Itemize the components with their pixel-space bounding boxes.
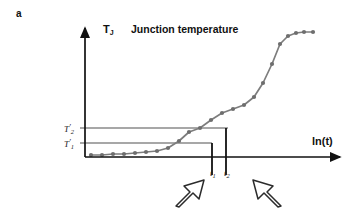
callout-arrow-left: [176, 180, 204, 207]
callout-arrow-right: [253, 180, 281, 207]
level-label-t-prime-1: T′1: [64, 139, 74, 151]
y-axis-label: TJ: [103, 24, 114, 36]
chart-title: Junction temperature: [131, 24, 238, 35]
level-2-subscript: 2: [71, 128, 74, 135]
panel-label: a: [16, 9, 22, 19]
y-axis-label-base: T: [103, 23, 110, 35]
figure-panel: a TJ Junction temperature ln(t) T′2 T′1 …: [0, 0, 364, 214]
level-1-subscript: 1: [71, 143, 74, 150]
level-label-t-prime-2: T′2: [64, 124, 74, 136]
time-label-t1: t1: [210, 169, 216, 180]
junction-temperature-curve: [91, 32, 313, 155]
t2-subscript: 2: [226, 172, 229, 179]
x-axis-label: ln(t): [312, 136, 333, 147]
t1-subscript: 1: [212, 172, 215, 179]
y-axis-label-subscript: J: [110, 29, 114, 36]
curve-markers: [89, 30, 315, 157]
time-label-t2: t2: [224, 169, 230, 180]
